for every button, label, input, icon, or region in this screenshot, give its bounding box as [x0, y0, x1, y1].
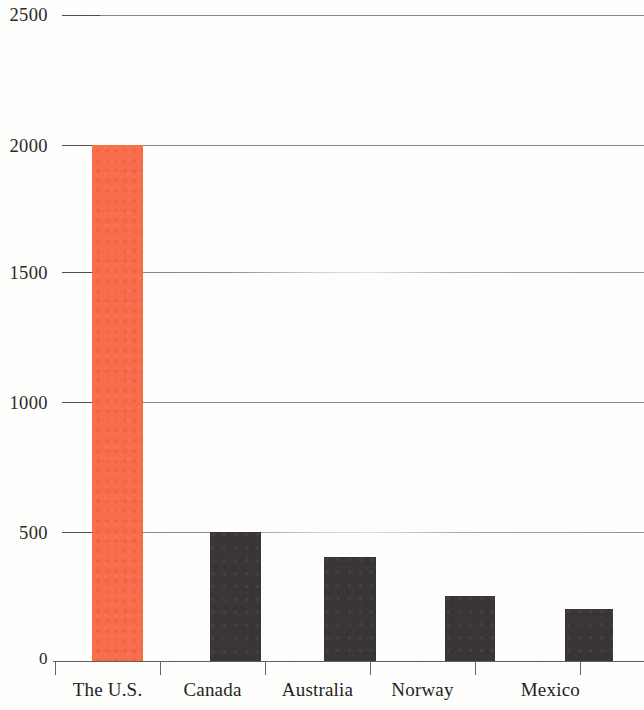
- bar-the-us: [92, 145, 143, 661]
- x-axis-tick-5: [580, 662, 581, 675]
- y-axis-label-1000: 1000: [0, 393, 48, 414]
- x-axis-label-the-us: The U.S.: [55, 679, 160, 701]
- x-axis-label-canada: Canada: [160, 679, 265, 701]
- ytick-stub-2500: [62, 15, 100, 16]
- x-axis-label-norway: Norway: [370, 679, 475, 701]
- x-axis-tick-3: [370, 662, 371, 675]
- gridline-500: [62, 532, 644, 533]
- bar-australia: [324, 557, 376, 661]
- bar-mexico: [565, 609, 613, 661]
- x-axis-label-australia: Australia: [265, 679, 370, 701]
- gridline-1500: [62, 272, 644, 273]
- y-axis-label-1500: 1500: [0, 263, 48, 284]
- bar-norway: [445, 596, 495, 661]
- y-axis-label-2500: 2500: [0, 5, 48, 26]
- x-axis-tick-2: [265, 662, 266, 675]
- x-axis-line: [53, 661, 644, 662]
- plot-area: 2500 2000 1500 1000 500 0 The U.S. Canad…: [0, 0, 644, 710]
- gridline-1000: [62, 402, 644, 403]
- x-axis-tick-4: [475, 662, 476, 675]
- bar-canada: [210, 532, 261, 661]
- gridline-2500: [62, 15, 644, 16]
- y-axis-label-500: 500: [0, 523, 48, 544]
- y-axis-label-2000: 2000: [0, 136, 48, 157]
- gridline-2000: [62, 145, 644, 146]
- x-axis-label-mexico: Mexico: [475, 679, 586, 701]
- x-axis-tick-0: [55, 662, 56, 675]
- bar-chart: 2500 2000 1500 1000 500 0 The U.S. Canad…: [0, 0, 644, 710]
- x-axis-tick-1: [160, 662, 161, 675]
- y-axis-label-0: 0: [0, 649, 48, 669]
